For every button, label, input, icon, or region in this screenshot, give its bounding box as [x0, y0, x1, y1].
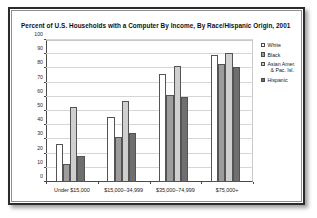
bar	[122, 101, 129, 182]
legend-item-label: Asian Amer.& Pac. Isl.	[268, 61, 296, 73]
x-axis-tick-label: $15,000–34,999	[104, 187, 143, 193]
bar	[129, 133, 136, 182]
y-axis-tick-label: 30	[37, 130, 43, 136]
bar-group	[98, 40, 150, 182]
bar	[107, 117, 114, 182]
legend-item-label: Black	[268, 52, 281, 58]
legend-item-label-line2: & Pac. Isl.	[268, 67, 296, 73]
y-axis-tick-label: 60	[37, 88, 43, 94]
legend-swatch-icon	[261, 43, 265, 47]
legend-swatch-icon	[261, 78, 265, 82]
x-axis-tick-label: $35,000–74,999	[156, 187, 195, 193]
chart-figure-frame: Percent of U.S. Households with a Comput…	[8, 7, 305, 205]
legend-item[interactable]: White	[261, 42, 307, 48]
x-axis-tick-mark	[98, 182, 99, 184]
bar-group	[150, 40, 202, 182]
y-axis-tick-label: 90	[37, 45, 43, 51]
bar	[211, 55, 218, 182]
x-axis-tick-mark	[201, 182, 202, 184]
bar-group	[46, 40, 98, 182]
x-axis-tick-label: $75,000+	[216, 187, 239, 193]
bar	[225, 53, 232, 182]
bar-group	[201, 40, 253, 182]
x-axis-tick-mark	[46, 182, 47, 184]
legend-item[interactable]: Hispanic	[261, 77, 307, 83]
bar	[218, 64, 225, 182]
bar	[70, 107, 77, 182]
x-axis-tick-mark	[253, 182, 254, 184]
legend-item[interactable]: Black	[261, 52, 307, 58]
legend-swatch-icon	[261, 52, 265, 56]
y-axis-tick-label: 20	[37, 145, 43, 151]
legend-swatch-icon	[261, 62, 265, 66]
bar	[63, 164, 70, 182]
y-axis-tick-label: 80	[37, 59, 43, 65]
bar	[77, 156, 84, 182]
y-axis-tick-label: 0	[40, 173, 43, 179]
bar	[181, 97, 188, 182]
x-axis-tick-mark	[150, 182, 151, 184]
x-axis-tick-label: Under $15,000	[54, 187, 90, 193]
plot-area: 1009080706050403020100 Under $15,000$15,…	[46, 40, 253, 182]
y-axis-tick-label: 50	[37, 102, 43, 108]
y-axis-tick-label: 10	[37, 159, 43, 165]
bar	[115, 137, 122, 182]
bar	[174, 66, 181, 182]
bar	[56, 144, 63, 182]
y-axis-tick-label: 40	[37, 116, 43, 122]
bar	[159, 74, 166, 182]
legend-item[interactable]: Asian Amer.& Pac. Isl.	[261, 61, 307, 73]
y-axis-tick-label: 100	[34, 31, 43, 37]
legend-item-label: White	[268, 42, 281, 48]
bars-layer	[46, 40, 253, 182]
y-axis-tick-label: 70	[37, 74, 43, 80]
legend-item-label: Hispanic	[268, 77, 288, 83]
bar	[233, 67, 240, 182]
chart-title: Percent of U.S. Households with a Comput…	[21, 22, 295, 29]
chart-legend: WhiteBlackAsian Amer.& Pac. Isl.Hispanic	[261, 42, 307, 87]
bar	[166, 95, 173, 182]
